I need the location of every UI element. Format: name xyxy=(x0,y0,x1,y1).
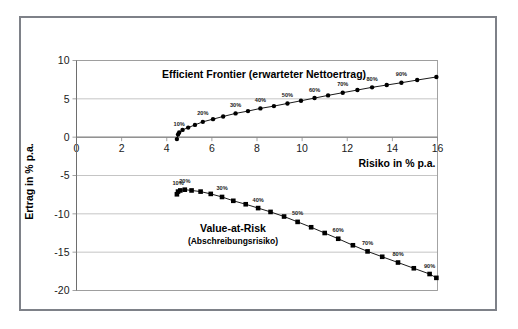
data-point-marker xyxy=(434,276,439,281)
y-tick-label-5: 5 xyxy=(64,93,70,105)
point-percent-label: 30% xyxy=(230,102,241,108)
data-point-marker xyxy=(175,137,179,141)
data-point-marker xyxy=(427,272,432,277)
x-tick-label-2: 2 xyxy=(119,142,125,154)
point-percent-label: 70% xyxy=(362,240,373,246)
data-point-marker xyxy=(201,120,205,124)
data-point-marker xyxy=(341,91,345,95)
data-point-marker xyxy=(256,206,261,211)
data-point-marker xyxy=(299,99,303,103)
x-tick-label-4: 4 xyxy=(164,142,170,154)
point-percent-label: 10% xyxy=(174,121,185,127)
x-tick-label-12: 12 xyxy=(341,142,353,154)
data-point-marker xyxy=(370,85,374,89)
data-point-marker xyxy=(412,266,417,271)
point-percent-label: 20% xyxy=(197,110,208,116)
data-point-marker xyxy=(233,111,237,115)
y-tick-label--20: -20 xyxy=(54,284,69,296)
data-point-marker xyxy=(365,249,370,254)
point-percent-label: 90% xyxy=(424,263,435,269)
series-line-0 xyxy=(177,77,436,139)
data-point-marker xyxy=(198,189,203,194)
data-point-marker xyxy=(380,254,385,259)
data-point-marker xyxy=(434,75,438,79)
data-point-marker xyxy=(268,210,273,215)
data-point-marker xyxy=(295,220,300,225)
data-point-marker xyxy=(312,96,316,100)
x-tick-label-8: 8 xyxy=(254,142,260,154)
point-percent-label: 90% xyxy=(396,71,407,77)
data-point-marker xyxy=(193,123,197,127)
y-tick-label--5: -5 xyxy=(60,169,69,181)
data-point-marker xyxy=(322,231,327,236)
y-axis-ticklabels-group: 1050-5-10-15-20 xyxy=(54,54,76,296)
data-point-marker xyxy=(355,88,359,92)
data-point-marker xyxy=(246,109,250,113)
point-percent-label: 80% xyxy=(392,251,403,257)
data-point-marker xyxy=(415,78,419,82)
data-point-marker xyxy=(183,187,188,192)
data-point-marker xyxy=(336,236,341,241)
value-at-risk-annotation: Value-at-Risk xyxy=(200,222,266,234)
x-tick-label-14: 14 xyxy=(387,142,399,154)
axis-titles-group: Risiko in % p.a.Ertrag in % p.a. xyxy=(23,143,436,220)
x-axis-title: Risiko in % p.a. xyxy=(358,157,435,169)
data-point-marker xyxy=(231,199,236,204)
data-point-marker xyxy=(285,101,289,105)
x-tick-label-10: 10 xyxy=(296,142,308,154)
point-percent-label: 60% xyxy=(309,87,320,93)
point-percent-label: 50% xyxy=(292,210,303,216)
x-tick-label-6: 6 xyxy=(209,142,215,154)
x-tick-label-16: 16 xyxy=(432,142,444,154)
data-point-marker xyxy=(243,202,248,207)
series-efficient-frontier xyxy=(175,75,439,141)
data-point-marker xyxy=(258,106,262,110)
series-annotations-group: Efficient Frontier (erwarteter Nettoertr… xyxy=(162,68,366,246)
y-tick-label-0: 0 xyxy=(64,131,70,143)
y-tick-label-10: 10 xyxy=(58,54,70,66)
y-tick-label--15: -15 xyxy=(54,246,69,258)
data-point-marker xyxy=(189,188,194,193)
chart-screenshot: 0246810121416 1050-5-10-15-20 10%20%30%4… xyxy=(0,0,518,329)
data-point-marker xyxy=(309,225,314,230)
data-point-marker xyxy=(221,114,225,118)
data-point-marker xyxy=(399,81,403,85)
value-at-risk-subtitle: (Abschreibungsrisiko) xyxy=(188,236,278,246)
point-percent-label: 80% xyxy=(366,76,377,82)
data-point-marker xyxy=(385,83,389,87)
y-tick-label--10: -10 xyxy=(54,208,69,220)
data-point-marker xyxy=(186,125,190,129)
data-point-marker xyxy=(326,93,330,97)
point-percent-label: 30% xyxy=(216,185,227,191)
point-percent-label: 40% xyxy=(253,197,264,203)
data-point-marker xyxy=(351,243,356,248)
point-percent-label: 60% xyxy=(333,227,344,233)
data-point-marker xyxy=(180,128,184,132)
point-percent-label: 20% xyxy=(179,178,190,184)
data-point-marker xyxy=(220,195,225,200)
data-point-marker xyxy=(396,260,401,265)
data-point-marker xyxy=(272,104,276,108)
data-point-marker xyxy=(178,188,183,193)
data-point-marker xyxy=(282,214,287,219)
efficient-frontier-annotation: Efficient Frontier (erwarteter Nettoertr… xyxy=(162,68,366,80)
chart-canvas: 0246810121416 1050-5-10-15-20 10%20%30%4… xyxy=(0,0,518,329)
point-percent-label: 40% xyxy=(255,97,266,103)
y-axis-title: Ertrag in % p.a. xyxy=(23,143,35,220)
data-point-marker xyxy=(208,192,213,197)
data-point-marker xyxy=(211,117,215,121)
point-percent-label: 50% xyxy=(282,92,293,98)
point-percent-label: 70% xyxy=(337,81,348,87)
